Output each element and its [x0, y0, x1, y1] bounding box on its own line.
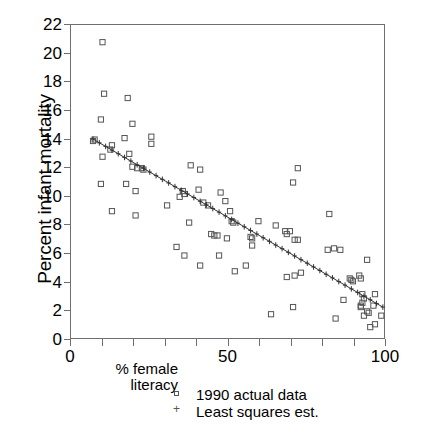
- data-point: [212, 233, 217, 238]
- legend-label-least-squares: Least squares est.: [196, 403, 319, 420]
- data-point: [248, 234, 253, 239]
- data-point: [164, 203, 169, 208]
- y-axis-tick: [64, 253, 70, 254]
- x-axis-tick: [322, 339, 323, 346]
- data-point: [182, 253, 187, 258]
- data-point: [218, 190, 223, 195]
- data-point: [188, 163, 193, 168]
- y-axis-tick: [64, 81, 70, 82]
- data-point: [379, 313, 384, 318]
- data-point: [198, 167, 203, 172]
- y-axis-tick-label: 2: [22, 302, 62, 319]
- y-axis-tick-label: 22: [22, 16, 62, 33]
- data-point: [209, 231, 214, 236]
- data-point: [98, 117, 103, 122]
- data-point: [331, 246, 336, 251]
- data-point: [284, 274, 289, 279]
- data-point: [187, 220, 192, 225]
- legend-label-actual-data: 1990 actual data: [196, 386, 307, 403]
- y-axis-tick-label: 16: [22, 102, 62, 119]
- data-point: [125, 95, 130, 100]
- data-point: [292, 237, 297, 242]
- data-point: [295, 166, 300, 171]
- y-axis-tick-label: 8: [22, 216, 62, 233]
- data-point: [130, 121, 135, 126]
- x-axis-tick: [259, 339, 260, 346]
- x-axis-caption-line1: % female: [58, 361, 178, 377]
- x-axis-tick: [165, 339, 166, 346]
- plus-icon: +: [172, 404, 181, 415]
- data-point: [100, 40, 105, 45]
- x-axis-tick: [385, 339, 386, 346]
- x-axis-tick: [196, 339, 197, 346]
- data-point: [349, 277, 354, 282]
- data-point: [174, 244, 179, 249]
- data-point: [224, 236, 229, 241]
- y-axis-tick: [64, 53, 70, 54]
- y-axis-tick-label: 0: [22, 331, 62, 348]
- y-axis-tick-label: 18: [22, 73, 62, 90]
- data-point: [292, 273, 297, 278]
- x-axis-tick: [228, 339, 229, 346]
- x-axis-caption-line2: literacy: [58, 377, 178, 393]
- y-axis-tick: [64, 139, 70, 140]
- open-square-icon: [174, 391, 179, 396]
- data-point: [232, 269, 237, 274]
- x-axis-tick: [354, 339, 355, 346]
- data-point: [290, 180, 295, 185]
- x-axis-caption: % female literacy: [58, 361, 178, 393]
- data-point: [372, 292, 377, 297]
- fit-markers: [91, 136, 385, 310]
- y-axis-tick: [64, 24, 70, 25]
- data-point: [109, 209, 114, 214]
- data-point: [215, 233, 220, 238]
- data-point: [243, 263, 248, 268]
- data-point: [341, 297, 346, 302]
- data-point: [149, 141, 154, 146]
- y-axis-tick: [64, 310, 70, 311]
- data-point: [298, 270, 303, 275]
- x-axis-tick-label: 100: [355, 348, 415, 365]
- y-axis-tick-label: 12: [22, 159, 62, 176]
- y-axis-tick-label: 20: [22, 45, 62, 62]
- data-point: [273, 223, 278, 228]
- data-point: [133, 213, 138, 218]
- data-point: [100, 154, 105, 159]
- x-axis-tick: [102, 339, 103, 346]
- y-axis-tick: [64, 110, 70, 111]
- data-point: [290, 304, 295, 309]
- data-point: [122, 136, 127, 141]
- y-axis-tick-label: 14: [22, 131, 62, 148]
- y-axis-tick: [64, 282, 70, 283]
- y-axis-tick: [64, 224, 70, 225]
- data-point: [223, 199, 228, 204]
- data-point: [327, 211, 332, 216]
- y-axis-tick: [64, 196, 70, 197]
- y-axis-tick-label: 6: [22, 245, 62, 262]
- data-point: [216, 253, 221, 258]
- data-point: [365, 257, 370, 262]
- x-axis-tick-label: 50: [198, 348, 258, 365]
- plot-area: [70, 24, 385, 339]
- data-point: [149, 134, 154, 139]
- infant-mortality-scatter-figure: Percent infant mortality 024681012141618…: [0, 0, 421, 436]
- data-point: [198, 263, 203, 268]
- data-point: [196, 187, 201, 192]
- data-layer: [71, 25, 386, 340]
- data-point: [227, 209, 232, 214]
- data-point: [250, 236, 255, 241]
- data-point: [133, 188, 138, 193]
- data-point: [333, 316, 338, 321]
- scatter-points: [90, 40, 383, 330]
- x-axis-tick: [70, 339, 71, 346]
- data-point: [295, 237, 300, 242]
- data-point: [325, 247, 330, 252]
- y-axis-tick-label: 4: [22, 274, 62, 291]
- data-point: [250, 243, 255, 248]
- x-axis-tick: [291, 339, 292, 346]
- data-point: [338, 247, 343, 252]
- y-axis-tick: [64, 167, 70, 168]
- y-axis-tick-label: 10: [22, 188, 62, 205]
- x-axis-tick: [133, 339, 134, 346]
- data-point: [268, 312, 273, 317]
